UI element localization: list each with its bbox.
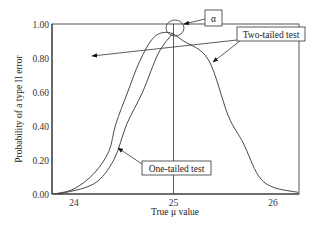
x-axis-label: True μ value [151,207,199,217]
y-tick-labels: 0.000.200.400.600.801.00 [32,20,49,200]
alpha-circle-marker [166,20,184,36]
y-tick-label: 1.00 [32,20,49,30]
x-tick-label: 24 [69,198,79,208]
y-tick-label: 0.20 [32,156,49,166]
y-tick-label: 0.40 [32,122,49,132]
two-tailed-label: Two-tailed test [243,30,300,40]
type-ii-error-chart: 0.000.200.400.600.801.00 242526 True μ v… [0,0,320,229]
two-tailed-arrow-right [213,41,240,62]
two-tailed-arrow-left [92,40,237,56]
y-axis-label: Probability of a type II error [14,54,24,162]
alpha-label: α [211,14,216,24]
one-tailed-label: One-tailed test [149,164,205,174]
x-tick-label: 26 [268,198,278,208]
one-tailed-arrow [118,148,142,164]
y-tick-label: 0.60 [32,88,49,98]
alpha-arrow [184,19,205,24]
y-tick-label: 0.80 [32,54,49,64]
y-tick-label: 0.00 [32,190,49,200]
